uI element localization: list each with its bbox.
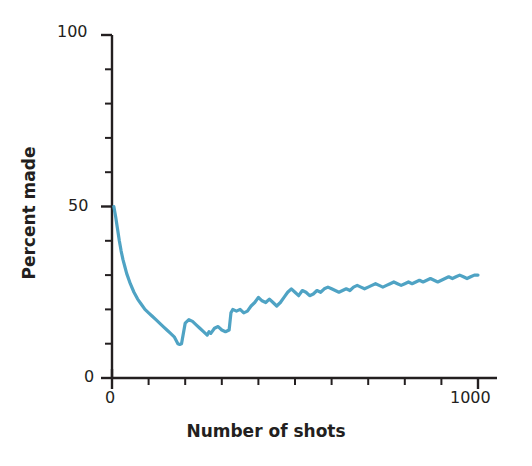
axis-lines	[112, 35, 497, 378]
y-tick-label-100: 100	[57, 22, 88, 41]
x-tick-label-1000: 1000	[450, 388, 491, 407]
x-tick-label-0: 0	[105, 388, 115, 407]
y-tick-label-50: 50	[68, 196, 88, 215]
chart-figure: 100 50 0 0 1000 Percent made Number of s…	[0, 0, 532, 466]
y-tick-label-0: 0	[84, 367, 94, 386]
y-axis-title: Percent made	[19, 123, 39, 303]
data-series-line	[114, 207, 478, 345]
x-axis-title: Number of shots	[0, 421, 532, 441]
y-axis-ticks	[101, 35, 112, 378]
